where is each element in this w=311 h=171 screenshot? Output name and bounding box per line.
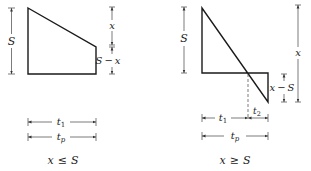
right-condition: x≥S [220, 154, 251, 167]
height-label: S [180, 32, 188, 45]
trapezoid-shape [28, 8, 96, 74]
x-label: x [295, 47, 301, 58]
tp-label: tp [231, 130, 240, 143]
left-diagram: S x S−x t1 [8, 7, 121, 167]
x-label: x [109, 20, 115, 31]
t1-label: t1 [219, 112, 228, 125]
height-label: S [8, 35, 16, 48]
tp-label: tp [57, 131, 66, 144]
upper-triangle-shape [202, 8, 268, 102]
left-condition: x≤S [48, 154, 79, 167]
diagram-canvas: S x S−x t1 [0, 0, 311, 171]
x-minus-s-label: x−S [270, 82, 295, 93]
s-minus-x-label: S−x [96, 55, 121, 66]
t2-label: t2 [253, 106, 261, 118]
right-diagram: S x x−S t1 [180, 5, 301, 167]
t1-label: t1 [57, 116, 66, 129]
